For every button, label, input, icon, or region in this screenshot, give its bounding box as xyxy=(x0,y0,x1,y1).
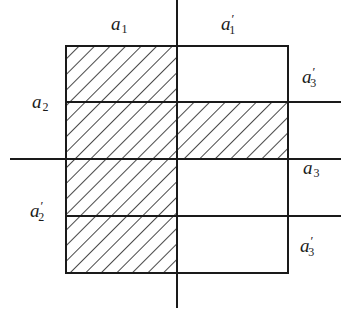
label-sub: 2 xyxy=(38,210,44,224)
label-a1-prime: a′1 xyxy=(221,14,235,33)
label-sub: 3 xyxy=(314,166,320,180)
label-sub: 1 xyxy=(122,22,128,36)
label-a1: a1 xyxy=(111,14,128,35)
label-base: a xyxy=(303,157,313,178)
label-sub: 2 xyxy=(43,100,49,114)
partition-diagram xyxy=(0,0,343,311)
label-a2: a2 xyxy=(32,92,49,113)
hatched-region-a1prime-a3 xyxy=(177,102,288,159)
label-sub: 3 xyxy=(308,245,314,259)
label-a3-prime-top: a′3 xyxy=(302,67,316,86)
label-base: a xyxy=(111,13,121,34)
label-base: a xyxy=(32,91,42,112)
label-a2-prime: a′2 xyxy=(30,201,44,220)
label-a3: a3 xyxy=(303,158,320,179)
label-a3-prime-bottom: a′3 xyxy=(300,236,314,255)
label-sub: 3 xyxy=(310,76,316,90)
label-sub: 1 xyxy=(229,23,235,37)
